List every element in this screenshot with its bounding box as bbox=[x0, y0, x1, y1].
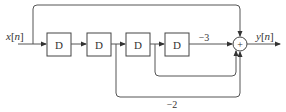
delay-label: D bbox=[134, 39, 142, 51]
plus-icon: + bbox=[237, 39, 243, 50]
delay-label: D bbox=[173, 39, 181, 51]
summing-junction: + bbox=[233, 37, 247, 51]
delay-label: D bbox=[95, 39, 103, 51]
input-label: x[n] bbox=[5, 30, 24, 42]
gain-label-minus-2: −2 bbox=[167, 99, 178, 110]
gain-label-minus-3: −3 bbox=[199, 32, 210, 43]
delay-block-2: D bbox=[87, 33, 111, 56]
block-diagram: x[n] D D D D −3 −2 + y[n] bbox=[0, 0, 286, 112]
delay-block-1: D bbox=[47, 33, 71, 56]
output-label: y[n] bbox=[255, 30, 274, 42]
delay-block-3: D bbox=[126, 33, 150, 56]
delay-label: D bbox=[55, 39, 63, 51]
delay-block-4: D bbox=[165, 33, 189, 56]
